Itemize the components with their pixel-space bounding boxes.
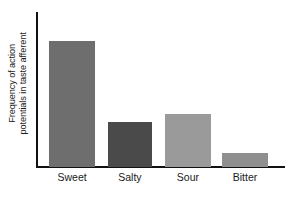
x-tick-label-sour: Sour: [177, 170, 199, 184]
x-tick-label-salty: Salty: [118, 170, 141, 184]
x-tick-label-bitter: Bitter: [233, 170, 258, 184]
y-axis-label: Frequency of action potentials in taste …: [0, 0, 36, 167]
bar-chart-figure: Frequency of action potentials in taste …: [0, 0, 305, 199]
plot-area: [38, 12, 285, 167]
x-axis-tick-labels: Sweet Salty Sour Bitter: [38, 170, 285, 190]
bar-bitter: [222, 153, 268, 167]
bar-sour: [165, 114, 211, 167]
x-tick-label-sweet: Sweet: [57, 170, 86, 184]
y-axis-label-line-2: potentials in taste afferent: [18, 32, 29, 134]
y-axis-label-text: Frequency of action potentials in taste …: [7, 32, 30, 134]
bar-sweet: [49, 41, 95, 167]
y-axis-label-line-1: Frequency of action: [7, 32, 18, 134]
bar-salty: [108, 122, 152, 167]
